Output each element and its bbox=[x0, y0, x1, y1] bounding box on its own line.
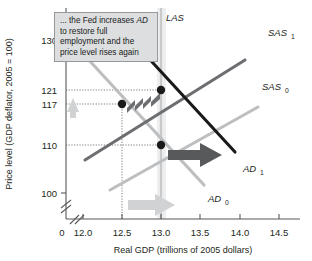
origin-label: 0 bbox=[59, 227, 64, 238]
chart-figure: 130 121 117 110 100 0 12.0 12.5 13.0 13.… bbox=[0, 0, 312, 261]
ad0-curve-label: AD 0 bbox=[207, 193, 229, 206]
sas0-label-sub: 0 bbox=[285, 87, 289, 94]
ad1-label-text: AD bbox=[242, 163, 256, 174]
ad0-label-sub: 0 bbox=[225, 199, 229, 206]
equilibrium-point-full-employment bbox=[157, 86, 165, 94]
sas0-curve bbox=[110, 107, 258, 190]
y-tick-label-117: 117 bbox=[42, 99, 57, 110]
las-curve-label: LAS bbox=[166, 12, 185, 23]
equilibrium-point-initial bbox=[118, 100, 126, 108]
x-tick-label-13-5: 13.5 bbox=[191, 227, 210, 238]
y-tick-label-110: 110 bbox=[42, 140, 57, 151]
annotation-callout: ... the Fed increases AD to restore full… bbox=[54, 12, 158, 62]
y-tick-label-121: 121 bbox=[41, 85, 57, 96]
sas0-curve-label: SAS 0 bbox=[262, 81, 289, 94]
x-tick-label-14-0: 14.0 bbox=[231, 227, 250, 238]
ad-shift-arrow bbox=[168, 143, 222, 167]
x-tick-label-12-5: 12.5 bbox=[113, 227, 132, 238]
sas1-label-sub: 1 bbox=[291, 33, 295, 40]
x-tick-label-12-0: 12.0 bbox=[74, 227, 93, 238]
ad1-curve-label: AD 1 bbox=[242, 163, 264, 176]
sas1-label-text: SAS bbox=[268, 27, 288, 38]
x-tick-label-13-0: 13.0 bbox=[152, 227, 171, 238]
price-level-rise-arrow bbox=[67, 98, 79, 118]
y-tick-label-100: 100 bbox=[41, 188, 57, 199]
adjustment-arrow bbox=[127, 93, 160, 113]
equilibrium-point-low-price bbox=[157, 141, 165, 149]
callout-prefix: ... the Fed increases bbox=[60, 16, 134, 25]
callout-suffix: to restore full employment and the price… bbox=[60, 27, 139, 57]
y-axis-title: Price level (GDP deflator, 2005 = 100) bbox=[4, 38, 14, 190]
ad1-label-sub: 1 bbox=[260, 169, 264, 176]
real-gdp-increase-arrow bbox=[128, 194, 175, 216]
ad0-label-text: AD bbox=[207, 193, 221, 204]
sas1-curve-label: SAS 1 bbox=[268, 27, 295, 40]
x-tick-label-14-5: 14.5 bbox=[270, 227, 289, 238]
sas0-label-text: SAS bbox=[262, 81, 282, 92]
x-axis-title: Real GDP (trillions of 2005 dollars) bbox=[114, 245, 252, 255]
callout-emphasis: AD bbox=[136, 16, 147, 25]
